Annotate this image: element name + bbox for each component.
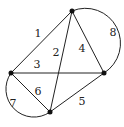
edge-label-5: 5 <box>79 95 86 108</box>
vertex-left <box>9 71 14 76</box>
edge-label-8: 8 <box>110 26 117 39</box>
edge-label-3: 3 <box>34 58 41 71</box>
edge-6 <box>11 73 50 112</box>
edge-5 <box>50 73 104 112</box>
edge-label-1: 1 <box>35 27 42 40</box>
edge-label-6: 6 <box>35 85 42 98</box>
edge-4 <box>72 11 104 73</box>
edge-2 <box>50 11 72 112</box>
vertex-top <box>70 9 75 14</box>
edge-label-7: 7 <box>10 97 17 110</box>
edge-1 <box>11 11 72 73</box>
edge-7 <box>6 73 50 117</box>
vertex-right <box>102 71 107 76</box>
vertex-bottom <box>48 110 53 115</box>
graph-diagram: 1 2 3 4 5 6 7 8 <box>0 0 124 127</box>
edge-label-4: 4 <box>79 42 86 55</box>
edge-label-2: 2 <box>53 46 60 59</box>
